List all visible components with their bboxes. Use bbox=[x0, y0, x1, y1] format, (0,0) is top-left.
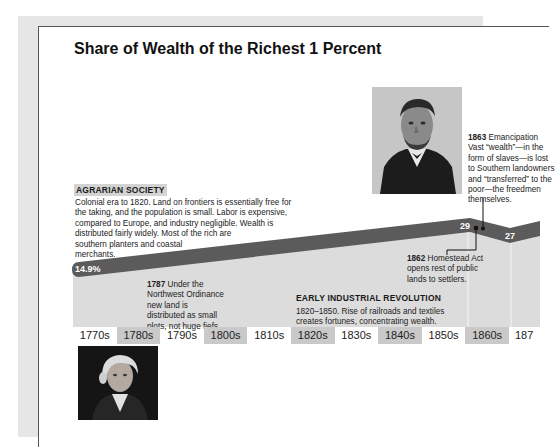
note-line: new land is bbox=[147, 301, 247, 311]
axis-decade-1870s: 187 bbox=[509, 327, 559, 344]
agrarian-line: compared to Europe, and industry negligi… bbox=[75, 219, 315, 229]
note-line: Emancipation bbox=[489, 133, 539, 142]
note-line: poor—the freedmen bbox=[468, 185, 558, 195]
band-label-dip: 27 bbox=[505, 231, 515, 241]
note-line: Northwest Ordinance bbox=[147, 290, 247, 300]
note-line: form of slaves—is lost bbox=[468, 154, 558, 164]
agrarian-line: Colonial era to 1820. Land on frontiers … bbox=[75, 198, 315, 208]
axis-decade-1790s: 1790s bbox=[160, 327, 204, 344]
axis-decade-1840s: 1840s bbox=[378, 327, 422, 344]
note-line: Vast “wealth”—in the bbox=[468, 143, 558, 153]
note-line: distributed as small bbox=[147, 311, 247, 321]
note-line: lands to settlers. bbox=[407, 275, 497, 285]
decade-axis: 1770s 1780s 1790s 1800s 1810s 1820s 1830… bbox=[73, 327, 553, 344]
note-line: themselves. bbox=[468, 195, 558, 205]
note-1862: 1862 Homestead Act opens rest of public … bbox=[407, 254, 497, 285]
agrarian-heading: AGRARIAN SOCIETY bbox=[74, 184, 167, 196]
axis-decade-1820s: 1820s bbox=[291, 327, 335, 344]
axis-decade-1800s: 1800s bbox=[204, 327, 248, 344]
note-1787: 1787 Under the Northwest Ordinance new l… bbox=[147, 280, 247, 332]
note-line: Homestead Act bbox=[428, 254, 484, 263]
note-line: opens rest of public bbox=[407, 264, 497, 274]
axis-decade-1830s: 1830s bbox=[335, 327, 379, 344]
axis-decade-1810s: 1810s bbox=[247, 327, 291, 344]
axis-decade-1780s: 1780s bbox=[117, 327, 161, 344]
agrarian-line: the taking, and the population is small.… bbox=[75, 208, 315, 218]
agrarian-line: distributed fairly widely. Most of the r… bbox=[75, 229, 315, 239]
axis-decade-1850s: 1850s bbox=[422, 327, 466, 344]
marker-1862-icon bbox=[474, 226, 478, 230]
agrarian-line: merchants. bbox=[75, 250, 315, 260]
axis-decade-1860s: 1860s bbox=[465, 327, 509, 344]
note-1863-year: 1863 bbox=[468, 133, 486, 142]
note-1863: 1863 Emancipation Vast “wealth”—in the f… bbox=[468, 133, 558, 206]
industrial-heading: EARLY INDUSTRIAL REVOLUTION bbox=[296, 293, 441, 303]
axis-decade-1770s: 1770s bbox=[73, 327, 117, 344]
note-1787-year: 1787 bbox=[147, 280, 165, 289]
note-line: Under the bbox=[168, 280, 204, 289]
note-1862-year: 1862 bbox=[407, 254, 425, 263]
agrarian-text: Colonial era to 1820. Land on frontiers … bbox=[75, 198, 315, 260]
agrarian-line: southern planters and coastal bbox=[75, 240, 315, 250]
industrial-text: 1820–1850. Rise of railroads and textile… bbox=[296, 307, 476, 328]
industrial-line: 1820–1850. Rise of railroads and textile… bbox=[296, 307, 476, 317]
band-label-start: 14.9% bbox=[75, 264, 101, 274]
band-label-peak: 29 bbox=[460, 221, 470, 231]
note-line: to Southern landowners bbox=[468, 164, 558, 174]
note-line: and “transferred” to the bbox=[468, 175, 558, 185]
marker-1863-icon bbox=[481, 227, 485, 231]
